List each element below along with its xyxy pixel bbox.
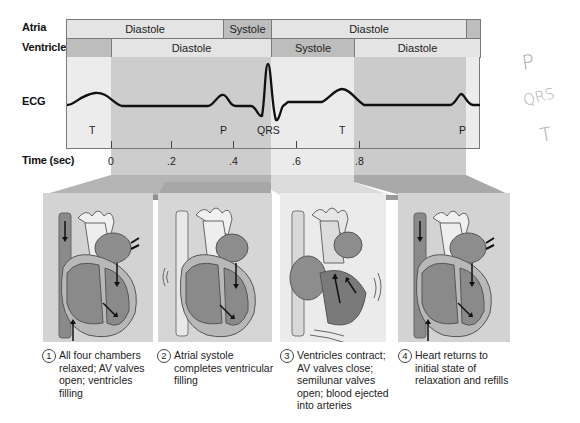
caption-line: Atrial systole [174,349,234,361]
stage-number-4: 4 [398,349,412,363]
stage-caption-2: 2Atrial systolecompletes ventricularfill… [157,349,273,387]
heart-panel-3 [280,193,386,342]
caption-line: Ventricles contract; [297,349,386,361]
heart-illustration-2 [158,193,272,342]
caption-line: completes ventricular [174,362,273,374]
caption-line: relaxation and refills [415,374,508,386]
caption-line: All four chambers [59,349,141,361]
heart-panel-4 [398,193,510,342]
caption-line: relaxed; AV valves [59,362,145,374]
caption-line: filling [59,387,83,399]
caption-line: open; blood ejected [297,387,389,399]
caption-line: AV valves close; [297,362,373,374]
stage-caption-4: 4Heart returns toinitial state ofrelaxat… [398,349,508,387]
heart-panel-2 [158,193,272,342]
stage-number-2: 2 [157,349,171,363]
stage-caption-1: 1All four chambersrelaxed; AV valvesopen… [42,349,145,399]
stage-caption-3: 3Ventricles contract;AV valves close;sem… [280,349,389,412]
heart-illustration-4 [398,193,510,342]
caption-line: open; ventricles [59,374,133,386]
heart-illustration-3 [280,193,386,342]
caption-line: filling [174,374,198,386]
heart-panel-1 [43,193,153,342]
panel-perspective-tops [0,0,580,200]
caption-line: Heart returns to [415,349,488,361]
stage-number-3: 3 [280,349,294,363]
stage-number-1: 1 [42,349,56,363]
caption-line: semilunar valves [297,374,375,386]
caption-line: initial state of [415,362,476,374]
caption-line: into arteries [297,399,352,411]
heart-illustration-1 [43,193,153,342]
